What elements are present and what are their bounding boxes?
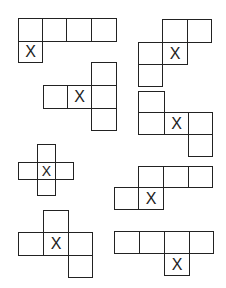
marked-face: X bbox=[164, 112, 189, 135]
net-face bbox=[91, 18, 117, 42]
net-face bbox=[187, 19, 212, 43]
net-face bbox=[66, 18, 92, 42]
marked-face: X bbox=[18, 41, 43, 63]
net-face bbox=[164, 231, 190, 254]
net-face bbox=[55, 162, 74, 180]
marked-face: X bbox=[67, 85, 92, 109]
net-face bbox=[162, 19, 188, 43]
net-face bbox=[91, 85, 117, 109]
net-face bbox=[68, 232, 93, 256]
net-face bbox=[91, 62, 117, 86]
net-face bbox=[138, 112, 165, 135]
marked-face: X bbox=[37, 162, 56, 180]
net-face bbox=[18, 18, 43, 42]
net-face bbox=[68, 255, 93, 278]
net-face bbox=[138, 64, 163, 87]
net-face bbox=[37, 144, 56, 163]
net-face bbox=[188, 112, 213, 135]
net-face bbox=[188, 134, 213, 157]
net-face bbox=[42, 18, 67, 42]
marked-face: X bbox=[43, 232, 69, 256]
net-face bbox=[43, 210, 69, 233]
net-face bbox=[18, 162, 38, 180]
net-face bbox=[138, 91, 165, 113]
marked-face: X bbox=[164, 253, 190, 276]
net-face bbox=[114, 231, 140, 254]
net-face bbox=[189, 231, 214, 254]
marked-face: X bbox=[162, 42, 188, 65]
net-face bbox=[138, 42, 163, 65]
net-face bbox=[91, 108, 117, 131]
net-face bbox=[138, 166, 164, 188]
net-face bbox=[18, 232, 44, 256]
net-face bbox=[114, 187, 139, 210]
net-face bbox=[163, 166, 189, 188]
net-face bbox=[37, 179, 56, 196]
net-face bbox=[188, 166, 213, 188]
marked-face: X bbox=[138, 187, 164, 210]
net-face bbox=[43, 85, 68, 109]
net-face bbox=[139, 231, 165, 254]
